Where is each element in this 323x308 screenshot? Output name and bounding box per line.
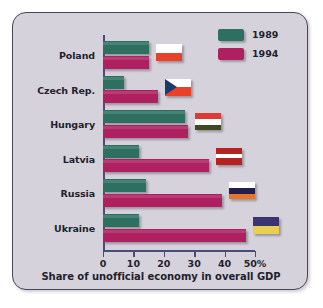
- category-label-latvia: Latvia: [15, 154, 95, 165]
- legend-label-1989: 1989: [252, 29, 278, 40]
- bar-hungary-1989: [103, 110, 185, 123]
- bar-highlight: [103, 195, 222, 198]
- bar-latvia-1989: [103, 145, 139, 158]
- x-tick-label-20: 20: [157, 258, 170, 269]
- bar-poland-1994: [103, 56, 149, 69]
- legend-item-1994: 1994: [218, 46, 304, 65]
- category-axis-labels: PolandCzech Rep.HungaryLatviaRussiaUkrai…: [13, 13, 95, 291]
- flag-czech-republic-icon: [165, 79, 191, 96]
- flag-latvia-icon: [216, 148, 242, 165]
- legend-label-1994: 1994: [252, 48, 278, 59]
- x-tick-10: [133, 251, 134, 257]
- flag-stripe: [156, 53, 182, 62]
- legend-swatch-1989: [218, 29, 244, 41]
- flag-stripe: [229, 194, 255, 200]
- x-tick-label-0: 0: [100, 258, 107, 269]
- flag-stripe: [216, 158, 242, 164]
- plot-area: PolandCzech Rep.HungaryLatviaRussiaUkrai…: [13, 13, 309, 291]
- x-tick-50: [255, 251, 256, 257]
- bar-highlight: [103, 91, 158, 94]
- bar-highlight: [103, 42, 149, 45]
- flag-triangle: [165, 79, 177, 95]
- bar-highlight: [103, 215, 139, 218]
- category-label-ukraine: Ukraine: [15, 223, 95, 234]
- bar-highlight: [103, 111, 185, 114]
- x-tick-label-10: 10: [127, 258, 140, 269]
- flag-stripe: [156, 44, 182, 53]
- category-label-hungary: Hungary: [15, 119, 95, 130]
- legend-item-1989: 1989: [218, 27, 304, 46]
- chart-frame: PolandCzech Rep.HungaryLatviaRussiaUkrai…: [12, 12, 308, 290]
- category-label-poland: Poland: [15, 50, 95, 61]
- x-tick-30: [194, 251, 195, 257]
- bar-highlight: [103, 160, 209, 163]
- category-label-russia: Russia: [15, 188, 95, 199]
- bar-ukraine-1989: [103, 214, 139, 227]
- flag-hungary-icon: [195, 113, 221, 130]
- flag-ukraine-icon: [253, 217, 279, 234]
- x-tick-20: [164, 251, 165, 257]
- bar-highlight: [103, 180, 146, 183]
- flag-stripe: [195, 125, 221, 131]
- x-tick-40: [225, 251, 226, 257]
- chart-legend: 19891994: [218, 27, 304, 65]
- flag-stripe: [253, 226, 279, 235]
- bar-hungary-1994: [103, 125, 188, 138]
- bar-czech-rep-1994: [103, 90, 158, 103]
- flag-stripe: [253, 217, 279, 226]
- bar-highlight: [103, 57, 149, 60]
- flag-russia-icon: [229, 182, 255, 199]
- x-tick-label-40: 40: [218, 258, 231, 269]
- x-tick-label-30: 30: [188, 258, 201, 269]
- x-tick-label-50: 50%: [244, 258, 267, 269]
- bar-ukraine-1994: [103, 229, 246, 242]
- bar-latvia-1994: [103, 159, 209, 172]
- bar-highlight: [103, 77, 124, 80]
- bar-czech-rep-1989: [103, 76, 124, 89]
- category-label-czech-rep: Czech Rep.: [15, 85, 95, 96]
- bar-poland-1989: [103, 41, 149, 54]
- chart-caption: Share of unofficial economy in overall G…: [13, 271, 309, 282]
- flag-poland-icon: [156, 44, 182, 61]
- bar-highlight: [103, 230, 246, 233]
- bar-russia-1994: [103, 194, 222, 207]
- legend-swatch-1994: [218, 48, 244, 60]
- bar-highlight: [103, 126, 188, 129]
- bar-russia-1989: [103, 179, 146, 192]
- x-tick-0: [103, 251, 104, 257]
- x-axis-line: [103, 250, 255, 252]
- bar-highlight: [103, 146, 139, 149]
